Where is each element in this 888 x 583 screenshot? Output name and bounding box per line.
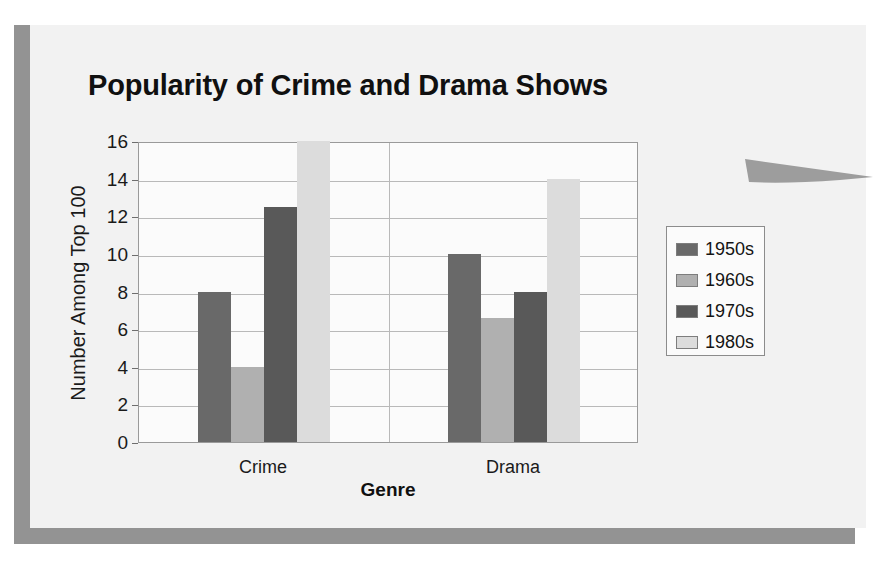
legend-label: 1970s <box>705 301 754 322</box>
y-axis-tick-label: 14 <box>84 169 128 191</box>
legend-item: 1960s <box>676 266 764 295</box>
y-axis-tick-label: 16 <box>84 131 128 153</box>
y-axis-tick-label: 4 <box>84 357 128 379</box>
y-axis-tick-mark <box>132 443 138 444</box>
decorative-left-bar <box>14 25 30 544</box>
y-axis-tick-label: 2 <box>84 394 128 416</box>
legend-item: 1950s <box>676 235 764 264</box>
legend-item: 1970s <box>676 297 764 326</box>
y-axis-tick-label: 10 <box>84 244 128 266</box>
legend-label: 1980s <box>705 332 754 353</box>
legend-swatch-1970s <box>676 305 698 318</box>
y-axis-tick-label: 0 <box>84 432 128 454</box>
x-axis-tick-label: Crime <box>239 457 287 478</box>
bar-drama-1970s <box>514 292 547 443</box>
y-axis-tick-label: 8 <box>84 282 128 304</box>
group-separator <box>389 143 390 442</box>
legend-swatch-1950s <box>676 243 698 256</box>
bar-drama-1960s <box>481 318 514 442</box>
decorative-bottom-bar <box>14 528 855 544</box>
bar-crime-1950s <box>198 292 231 443</box>
legend-label: 1950s <box>705 239 754 260</box>
bar-crime-1970s <box>264 207 297 442</box>
chart-title: Popularity of Crime and Drama Shows <box>88 69 688 102</box>
plot-area <box>138 142 638 443</box>
bar-crime-1960s <box>231 367 264 442</box>
legend-swatch-1980s <box>676 336 698 349</box>
y-axis-tick-label: 6 <box>84 319 128 341</box>
x-axis-label: Genre <box>138 479 638 501</box>
x-axis-tick-label: Drama <box>486 457 540 478</box>
chart-legend: 1950s1960s1970s1980s <box>666 226 765 356</box>
legend-label: 1960s <box>705 270 754 291</box>
y-axis-tick-label: 12 <box>84 206 128 228</box>
bar-crime-1980s <box>297 141 330 442</box>
legend-item: 1980s <box>676 328 764 357</box>
bar-drama-1950s <box>448 254 481 442</box>
legend-swatch-1960s <box>676 274 698 287</box>
slide-canvas: Popularity of Crime and Drama Shows Numb… <box>0 0 888 583</box>
bar-drama-1980s <box>547 179 580 442</box>
